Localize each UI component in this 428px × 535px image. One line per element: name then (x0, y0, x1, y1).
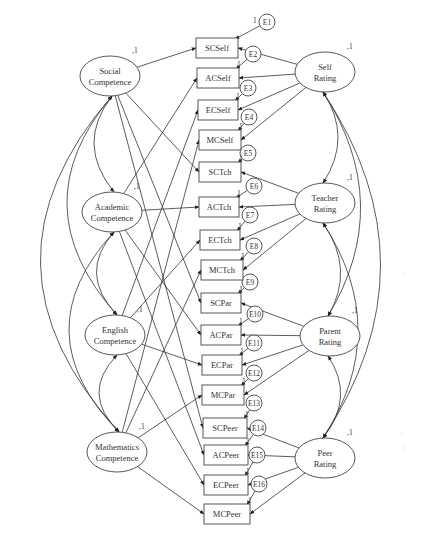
error-label: E4 (245, 113, 254, 122)
error-label: E3 (244, 84, 253, 93)
latent-label-line2: Rating (314, 204, 337, 214)
error-e14: E141 (245, 420, 266, 446)
error-e12: E121 (241, 365, 262, 386)
error-e1: E11 (235, 14, 275, 39)
error-label: E16 (253, 480, 265, 489)
error-label: E15 (251, 451, 263, 460)
variance-label: ,1 (347, 42, 353, 51)
indicator-acpar: ACPar (201, 325, 241, 345)
side-mark: a. (402, 269, 407, 278)
latent-label-line2: Competence (94, 336, 137, 346)
latent-label-line1: English (102, 325, 129, 335)
indicator-mcpeer: MCPeer (204, 504, 250, 524)
error-label: E12 (248, 369, 260, 378)
variance-label: ,1 (347, 173, 353, 182)
indicator-label: MCSelf (207, 135, 234, 145)
side-mark: c. (400, 429, 405, 438)
indicator-label: ECPeer (213, 480, 239, 490)
indicator-scpeer: SCPeer (203, 418, 247, 438)
error-label: E2 (249, 50, 258, 59)
indicator-label: ACTch (207, 202, 232, 212)
error-label: E10 (249, 310, 261, 319)
error-label: E11 (248, 339, 260, 348)
indicator-ecpeer: ECPeer (204, 475, 248, 495)
indicator-ecself: ECSelf (198, 100, 238, 120)
error-e11: E111 (239, 335, 262, 356)
side-mark: d. (402, 444, 408, 453)
error-label: E13 (248, 399, 260, 408)
indicator-acpeer: ACPeer (204, 445, 248, 465)
trait-loading-path (137, 48, 196, 67)
latent-label-line2: Competence (96, 453, 139, 463)
trait-loading-path (125, 230, 201, 335)
error-label: E1 (263, 18, 272, 27)
latent-pr: ParentRating,1 (300, 306, 360, 356)
trait-loading-path (142, 207, 199, 210)
indicator-label: ECTch (208, 235, 232, 245)
latent-label-line1: Parent (319, 326, 341, 336)
indicator-mcself: MCSelf (199, 130, 241, 150)
indicator-label: SCSelf (205, 43, 229, 53)
error-e7: E71 (237, 207, 258, 231)
sem-diagram: E11E21E31E41E51E61E71E81E91E101E111E121E… (0, 0, 428, 535)
latent-label-line2: Rating (314, 73, 337, 83)
indicator-ectch: ECTch (200, 230, 240, 250)
indicator-mcpar: MCPar (202, 385, 244, 405)
error-e2: E21 (236, 46, 261, 69)
fixed-loading-label: 1 (253, 16, 257, 25)
variance-label: ,1 (137, 305, 143, 314)
trait-loading-path (124, 78, 197, 194)
trait-loading-path (115, 96, 203, 428)
error-label: E7 (246, 211, 255, 220)
indicator-label: MCTch (209, 265, 236, 275)
latent-label-line2: Competence (91, 213, 134, 223)
variance-label: ,1 (134, 182, 140, 191)
side-marks: a.c.d. (400, 269, 408, 453)
error-e10: E101 (238, 306, 263, 326)
indicator-sctch: SCTch (199, 162, 241, 182)
error-e4: E41 (238, 109, 257, 131)
method-loading-path (241, 335, 300, 336)
indicator-actch: ACTch (199, 197, 239, 217)
latent-label-line2: Competence (89, 77, 132, 87)
trait-loading-path (126, 93, 199, 172)
latent-label-line1: Social (99, 66, 121, 76)
latent-sr: SelfRating,1 (295, 42, 355, 92)
indicator-label: ECSelf (206, 105, 231, 115)
indicator-label: MCPeer (213, 509, 242, 519)
latent-label-line1: Academic (95, 202, 130, 212)
latent-label-line1: Peer (317, 448, 332, 458)
indicator-acself: ACSelf (197, 68, 239, 88)
error-label: E6 (250, 182, 259, 191)
error-label: E14 (252, 424, 264, 433)
error-path (235, 26, 260, 39)
indicator-label: ECPar (211, 360, 233, 370)
indicator-label: MCPar (211, 390, 236, 400)
latent-label-line1: Teacher (312, 193, 339, 203)
indicator-label: ACPar (209, 330, 232, 340)
variance-label: ,1 (132, 46, 138, 55)
error-label: E5 (244, 149, 253, 158)
latent-sc: SocialCompetence,1 (80, 46, 140, 96)
indicator-label: ACSelf (205, 73, 231, 83)
indicator-ecpar: ECPar (202, 355, 242, 375)
error-label: E8 (250, 242, 259, 251)
trait-loading-path (142, 344, 202, 365)
error-e16: E161 (247, 476, 267, 505)
latent-label-line1: Mathematics (95, 442, 139, 452)
covariance-self-teacher (323, 92, 338, 183)
error-e13: E131 (244, 395, 262, 419)
indicator-label: SCTch (208, 167, 232, 177)
indicator-scself: SCSelf (196, 38, 238, 58)
indicator-scpar: SCPar (201, 293, 241, 313)
error-label: E9 (246, 278, 255, 287)
indicator-label: SCPeer (212, 423, 238, 433)
latent-label-line2: Rating (314, 459, 337, 469)
latent-label-line1: Self (318, 62, 332, 72)
indicator-mctch: MCTch (201, 260, 243, 280)
variance-label: ,1 (352, 306, 358, 315)
method-loading-path (239, 74, 295, 78)
variance-label: ,1 (347, 428, 353, 437)
covariance-social-academic (94, 96, 114, 192)
latent-label-line2: Rating (319, 337, 342, 347)
